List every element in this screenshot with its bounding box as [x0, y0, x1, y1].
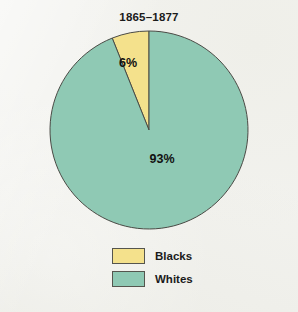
legend-item-whites[interactable]: Whites: [112, 271, 224, 287]
pie-slice-label-whites: 93%: [149, 152, 174, 166]
legend-label-blacks: Blacks: [155, 250, 192, 262]
pie-slice-whites[interactable]: [50, 31, 248, 229]
legend-swatch-blacks: [112, 248, 145, 264]
legend-item-blacks[interactable]: Blacks: [112, 248, 224, 264]
pie-slice-label-blacks: 6%: [119, 56, 137, 70]
pie-slices-group: [50, 31, 248, 229]
legend-swatch-whites: [112, 271, 145, 287]
chart-legend: Blacks Whites: [112, 248, 224, 294]
legend-label-whites: Whites: [155, 273, 193, 285]
pie-chart-figure: 1865–1877 6%93% Blacks Whites: [0, 0, 298, 312]
